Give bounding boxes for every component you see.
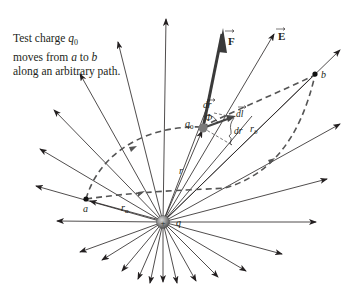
label-q0: q0 (185, 118, 194, 131)
field-label: E (278, 30, 285, 42)
path-lower (86, 75, 315, 199)
path-arrow-upper (129, 146, 137, 152)
dashed-paths (86, 75, 315, 199)
dl-arrowhead (226, 115, 236, 122)
label-dr: dr (234, 126, 243, 136)
r-vector (163, 131, 202, 222)
field-lines (36, 19, 340, 283)
electric-potential-diagram: Test charge q0 moves from a to b along a… (0, 0, 361, 292)
label-source-q: q (176, 217, 181, 228)
point-a (83, 196, 88, 201)
label-r-b: rb (250, 123, 258, 136)
label-dr-vector: dr (203, 100, 212, 110)
r-b-vector (163, 75, 314, 222)
label-a: a (83, 203, 88, 214)
point-b (312, 71, 317, 76)
plus-sign: + (160, 218, 165, 228)
path-arrow-lower (138, 191, 145, 197)
label-phi: Φ (205, 113, 212, 123)
projection-line (203, 128, 232, 145)
force-vector-arrow-icon (225, 30, 234, 33)
label-r-a: ra (121, 202, 129, 215)
label-b: b (321, 69, 326, 80)
label-r: r (179, 165, 183, 176)
diagram-svg: + F E a b q q0 r ra rb dr Φ dl dr (0, 0, 361, 292)
label-dl: dl (236, 109, 244, 119)
path-upper-2 (202, 75, 315, 127)
force-label: F (228, 35, 235, 47)
test-charge-q0 (199, 124, 208, 133)
